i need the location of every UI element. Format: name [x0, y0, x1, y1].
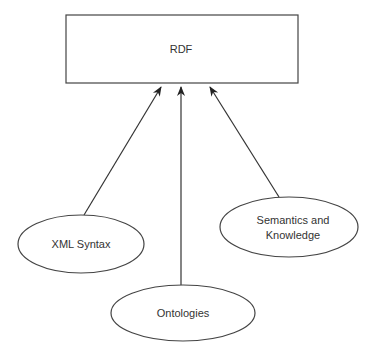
edge-xml-to-rdf [84, 87, 161, 215]
semantics-label-line1: Semantics and [257, 214, 330, 226]
semantics-label-line2: Knowledge [266, 229, 320, 241]
ontologies-label: Ontologies [157, 307, 210, 319]
rdf-label: RDF [170, 43, 193, 55]
semantics-knowledge-ellipse [220, 197, 358, 257]
semantics-knowledge-node: Semantics and Knowledge [220, 197, 358, 257]
xml-syntax-label: XML Syntax [52, 238, 111, 250]
edge-semantics-to-rdf [210, 87, 279, 197]
ontologies-node: Ontologies [111, 285, 255, 341]
xml-syntax-node: XML Syntax [18, 215, 144, 273]
diagram-canvas: RDF XML Syntax Ontologies Semantics and … [0, 0, 376, 356]
rdf-node: RDF [66, 15, 298, 83]
